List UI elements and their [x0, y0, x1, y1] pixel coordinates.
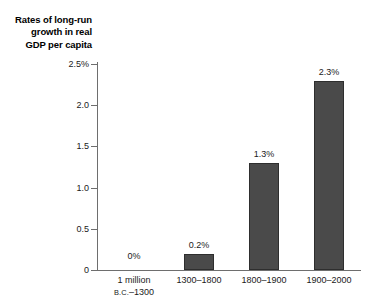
x-axis-line: [97, 270, 361, 271]
x-tick-label-0-bc: B.C.: [114, 288, 129, 297]
y-tick-mark-1: [91, 229, 97, 230]
y-tick-mark-3: [91, 146, 97, 147]
x-tick-label-3: 1900–2000: [294, 275, 364, 287]
y-tick-label-3: 1.5: [76, 142, 89, 151]
x-tick-label-0-range: –1300: [129, 287, 154, 297]
y-tick-label-2: 1.0: [76, 183, 89, 192]
y-tick-mark-5: [91, 64, 97, 65]
y-tick-mark-0: [91, 270, 97, 271]
y-tick-label-1: 0.5: [76, 224, 89, 233]
bar-value-label-0: 0%: [104, 252, 164, 261]
y-tick-mark-2: [91, 188, 97, 189]
y-tick-mark-4: [91, 105, 97, 106]
y-tick-label-5: 2.5%: [68, 60, 89, 69]
x-tick-label-3-line1: 1900–2000: [306, 275, 351, 285]
bar-chart: Rates of long-run growth in real GDP per…: [0, 0, 378, 308]
bar-1900-2000: [314, 81, 344, 270]
y-axis-line: [97, 62, 98, 271]
bar-1300-1800: [184, 254, 214, 271]
x-tick-label-1: 1300–1800: [164, 275, 234, 287]
x-tick-label-1-line1: 1300–1800: [176, 275, 221, 285]
x-tick-label-0-line2: B.C.–1300: [99, 287, 169, 299]
bar-value-label-2: 1.3%: [234, 150, 294, 159]
x-tick-label-2-line1: 1800–1900: [241, 275, 286, 285]
y-tick-label-4: 2.0: [76, 101, 89, 110]
bar-1800-1900: [249, 163, 279, 270]
x-tick-label-0-line1: 1 million: [117, 275, 150, 285]
x-tick-label-0: 1 million B.C.–1300: [99, 275, 169, 298]
chart-title: Rates of long-run growth in real GDP per…: [4, 14, 92, 51]
y-tick-label-0: 0: [84, 266, 89, 275]
x-tick-label-2: 1800–1900: [229, 275, 299, 287]
bar-value-label-3: 2.3%: [299, 68, 359, 77]
bar-value-label-1: 0.2%: [169, 241, 229, 250]
